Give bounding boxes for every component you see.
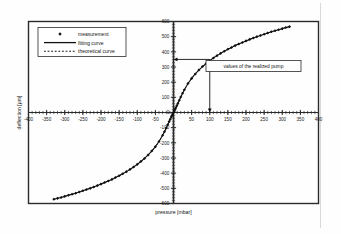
x-axis-tick-label: -150: [115, 117, 125, 122]
measurement-marker: [52, 198, 55, 201]
x-axis-tick-label: 300: [278, 117, 286, 122]
y-axis-title: deflection [µm]: [16, 95, 22, 129]
y-axis-tick-label: 0: [167, 110, 170, 115]
y-axis-tick-label: 200: [162, 80, 170, 85]
measurement-marker: [244, 39, 247, 42]
measurement-marker: [241, 41, 244, 44]
x-axis-tick-label: -100: [133, 117, 143, 122]
x-axis-tick-label: -350: [42, 117, 52, 122]
measurement-marker: [89, 187, 92, 190]
legend-label-0: measurement: [78, 31, 109, 37]
x-axis-tick-label: -400: [24, 117, 34, 122]
x-axis-tick-label: 50: [189, 117, 195, 122]
y-axis-tick-label: -300: [160, 156, 170, 161]
measurement-marker: [284, 26, 287, 29]
measurement-marker: [63, 195, 66, 198]
measurement-marker: [60, 196, 63, 199]
measurement-marker: [273, 29, 276, 32]
measurement-marker: [103, 181, 106, 184]
measurement-marker: [56, 197, 59, 200]
measurement-marker: [252, 36, 255, 39]
y-axis-tick-label: 100: [162, 95, 170, 100]
measurement-marker: [248, 38, 251, 41]
measurement-marker: [270, 30, 273, 33]
measurement-marker: [288, 25, 291, 28]
y-axis-tick-label: -400: [160, 171, 170, 176]
y-axis-tick-label: -500: [160, 186, 170, 191]
measurement-marker: [81, 189, 84, 192]
measurement-marker: [70, 193, 73, 196]
y-axis-tick-label: 600: [162, 19, 170, 24]
x-axis-title: pressure [mbar]: [155, 209, 192, 215]
measurement-marker: [78, 190, 81, 193]
measurement-marker: [92, 185, 95, 188]
measurement-marker: [281, 27, 284, 30]
y-axis-tick-label: 400: [162, 50, 170, 55]
measurement-marker: [67, 194, 70, 197]
measurement-marker: [99, 183, 102, 186]
x-axis-tick-label: 100: [206, 117, 214, 122]
y-axis-tick-label: -600: [160, 201, 170, 206]
x-axis-tick-label: -300: [60, 117, 70, 122]
y-axis-tick-label: 300: [162, 65, 170, 70]
x-axis-tick-label: -250: [78, 117, 88, 122]
measurement-marker: [263, 33, 266, 36]
measurement-marker: [259, 34, 262, 37]
measurement-marker: [266, 31, 269, 34]
measurement-marker: [277, 28, 280, 31]
x-axis-tick-label: 150: [224, 117, 232, 122]
x-axis-tick-label: 350: [297, 117, 305, 122]
measurement-marker: [85, 188, 88, 191]
y-axis-tick-label: 500: [162, 34, 170, 39]
annotation-label: values of the realized pump: [224, 64, 284, 69]
x-axis-tick-label: 400: [315, 117, 323, 122]
chart-canvas: -400-350-300-250-200-150-100-50501001502…: [0, 0, 341, 234]
x-axis-tick-label: -50: [152, 117, 159, 122]
legend-label-1: fitting curve: [78, 40, 104, 46]
measurement-marker: [96, 184, 99, 187]
measurement-marker: [255, 35, 258, 38]
x-axis-tick-label: 250: [260, 117, 268, 122]
x-axis-tick-label: 200: [242, 117, 250, 122]
chart-figure: -400-350-300-250-200-150-100-50501001502…: [0, 0, 341, 234]
y-axis-tick-label: -200: [160, 141, 170, 146]
legend-label-2: theoretical curve: [78, 48, 115, 54]
annotation-down-arrowhead: [208, 109, 212, 113]
measurement-marker: [74, 192, 77, 195]
x-axis-tick-label: -200: [96, 117, 106, 122]
